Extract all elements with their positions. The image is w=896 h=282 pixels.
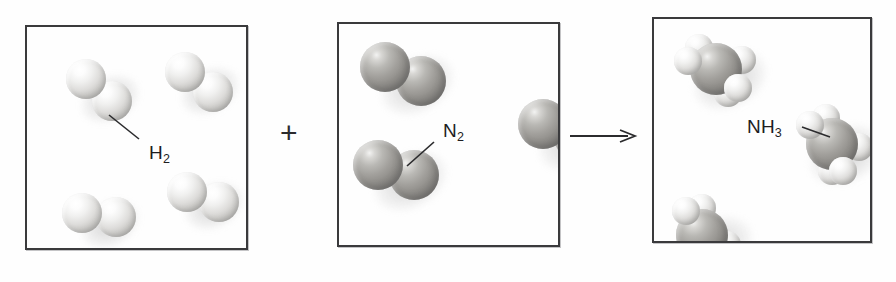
formula-element: N bbox=[443, 120, 457, 141]
reactant-hydrogen-contents: H2 bbox=[27, 27, 246, 248]
reactant-hydrogen-box: H2 bbox=[25, 25, 248, 250]
product-ammonia-box: NH3 bbox=[652, 17, 872, 243]
formula-element: NH bbox=[747, 116, 775, 137]
reactant-nitrogen-label: N2 bbox=[443, 120, 464, 144]
reaction-arrow bbox=[570, 127, 638, 145]
reactant-hydrogen-leader-line bbox=[27, 27, 246, 248]
reaction-diagram: H2N2NH3+ bbox=[0, 0, 896, 282]
reactant-nitrogen-contents: N2 bbox=[339, 24, 558, 245]
formula-subscript: 3 bbox=[775, 126, 782, 140]
plus-operator: + bbox=[280, 118, 298, 148]
formula-element: H bbox=[149, 142, 163, 163]
product-ammonia-label: NH3 bbox=[747, 116, 782, 140]
reactant-nitrogen-box: N2 bbox=[337, 22, 560, 247]
product-ammonia-contents: NH3 bbox=[654, 19, 870, 241]
formula-subscript: 2 bbox=[457, 130, 464, 144]
formula-subscript: 2 bbox=[163, 152, 170, 166]
reactant-hydrogen-label: H2 bbox=[149, 142, 170, 166]
